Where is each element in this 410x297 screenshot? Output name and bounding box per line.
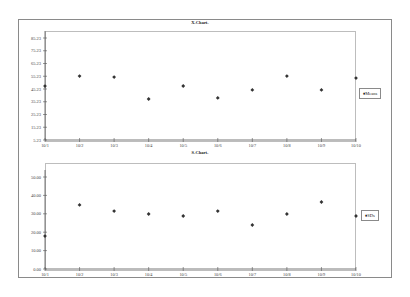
s-chart-y-tick-label: 40.00 <box>31 193 42 198</box>
s-chart-data-point <box>285 212 289 216</box>
x-chart-y-tick-label: 45.23 <box>31 87 42 92</box>
s-chart-x-tick-label: 10/4 <box>145 272 153 277</box>
x-chart-y-tick-label: 85.23 <box>31 36 42 41</box>
s-chart-data-point <box>78 203 82 207</box>
s-chart-x-tick-label: 10/1 <box>41 272 49 277</box>
x-chart-data-point <box>354 76 358 80</box>
s-chart-x-tick-label: 10/3 <box>110 272 118 277</box>
s-chart-x-tick-label: 10/10 <box>351 272 361 277</box>
s-chart-data-point <box>147 212 151 216</box>
s-chart-x-tick-label: 10/6 <box>214 272 222 277</box>
s-chart-x-tick-label: 10/5 <box>179 272 187 277</box>
x-chart-y-tick-label: 55.23 <box>31 74 42 79</box>
x-chart-legend: ♦Means <box>359 88 381 99</box>
s-chart-y-tick-label: 10.00 <box>31 248 42 253</box>
s-chart-data-point <box>250 223 254 227</box>
s-chart-y-tick-label: 50.00 <box>31 175 42 180</box>
x-chart-y-tick-label: 75.23 <box>31 48 42 53</box>
s-chart-y-tick-label: 20.00 <box>31 230 42 235</box>
x-chart-data-point <box>147 97 151 101</box>
x-chart-x-tick-label: 10/7 <box>249 143 257 148</box>
s-chart-x-tick-label: 10/7 <box>249 272 257 277</box>
s-chart-legend: ♦SDs <box>361 210 379 221</box>
x-chart-x-tick-label: 10/2 <box>76 143 84 148</box>
x-chart-data-point <box>181 84 185 88</box>
x-chart-x-tick-label: 10/8 <box>283 143 291 148</box>
x-chart-y-tick-label: 15.23 <box>31 125 42 130</box>
s-chart-data-point <box>112 209 116 213</box>
x-chart-data-point <box>216 96 220 100</box>
s-chart-data-point <box>181 214 185 218</box>
x-chart-y-tick-label: 25.23 <box>31 112 42 117</box>
x-chart-y-tick-label: 65.23 <box>31 61 42 66</box>
x-chart-data-point <box>112 75 116 79</box>
x-chart-x-tick-label: 10/9 <box>318 143 326 148</box>
x-chart-data-point <box>43 84 47 88</box>
x-chart-y-tick-label: 5.23 <box>33 138 42 143</box>
s-chart-data-point <box>43 234 47 238</box>
s-chart-data-point <box>354 214 358 218</box>
s-chart-data-point <box>320 200 324 204</box>
s-chart-y-tick-label: 0.00 <box>33 267 42 272</box>
x-chart-data-point <box>320 88 324 92</box>
x-chart-x-tick-label: 10/5 <box>179 143 187 148</box>
x-chart-data-point <box>78 74 82 78</box>
x-chart-x-tick-label: 10/6 <box>214 143 222 148</box>
x-chart-data-point <box>285 74 289 78</box>
s-chart-x-tick-label: 10/8 <box>283 272 291 277</box>
s-chart-y-tick-label: 30.00 <box>31 211 42 216</box>
s-chart-x-tick-label: 10/2 <box>76 272 84 277</box>
x-chart-data-point <box>250 88 254 92</box>
x-chart-y-tick-label: 35.23 <box>31 99 42 104</box>
s-chart-data-point <box>216 209 220 213</box>
s-chart-x-tick-label: 10/9 <box>318 272 326 277</box>
chart-canvas: 5.2315.2325.2335.2345.2355.2365.2375.238… <box>0 0 410 297</box>
x-chart-x-tick-label: 10/3 <box>110 143 118 148</box>
x-chart-x-tick-label: 10/1 <box>41 143 49 148</box>
x-chart-x-tick-label: 10/10 <box>351 143 361 148</box>
x-chart-x-tick-label: 10/4 <box>145 143 153 148</box>
